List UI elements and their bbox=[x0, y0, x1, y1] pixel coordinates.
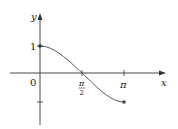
pi-half-numerator: π bbox=[78, 79, 85, 88]
cosine-graph: y x 0 1 π 2 π bbox=[0, 0, 178, 129]
x-axis-label: x bbox=[161, 77, 167, 88]
origin-label: 0 bbox=[30, 77, 36, 88]
x-axis-arrow-icon bbox=[159, 71, 166, 76]
y-axis-label: y bbox=[30, 11, 37, 22]
pi-half-denominator: 2 bbox=[80, 89, 84, 97]
y-axis-arrow-icon bbox=[38, 13, 43, 20]
y-one-label: 1 bbox=[30, 41, 36, 52]
end-point bbox=[122, 100, 126, 104]
start-point bbox=[38, 44, 42, 48]
pi-label: π bbox=[119, 79, 127, 90]
